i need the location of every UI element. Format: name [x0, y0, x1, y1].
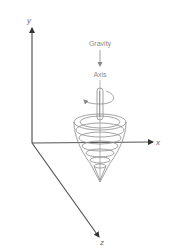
y-axis-label: y: [26, 16, 32, 25]
z-axis-line: [32, 143, 99, 237]
rotation-arrow-icon: [84, 91, 114, 104]
axis-label: Axis: [93, 71, 107, 78]
spinning-top: [74, 80, 126, 182]
gravity-label: Gravity: [89, 40, 112, 48]
x-axis-line: [32, 142, 153, 143]
diagram-canvas: y x z Gravity Axis: [0, 0, 174, 252]
x-axis-label: x: [155, 138, 161, 147]
z-axis-label: z: [99, 238, 104, 247]
